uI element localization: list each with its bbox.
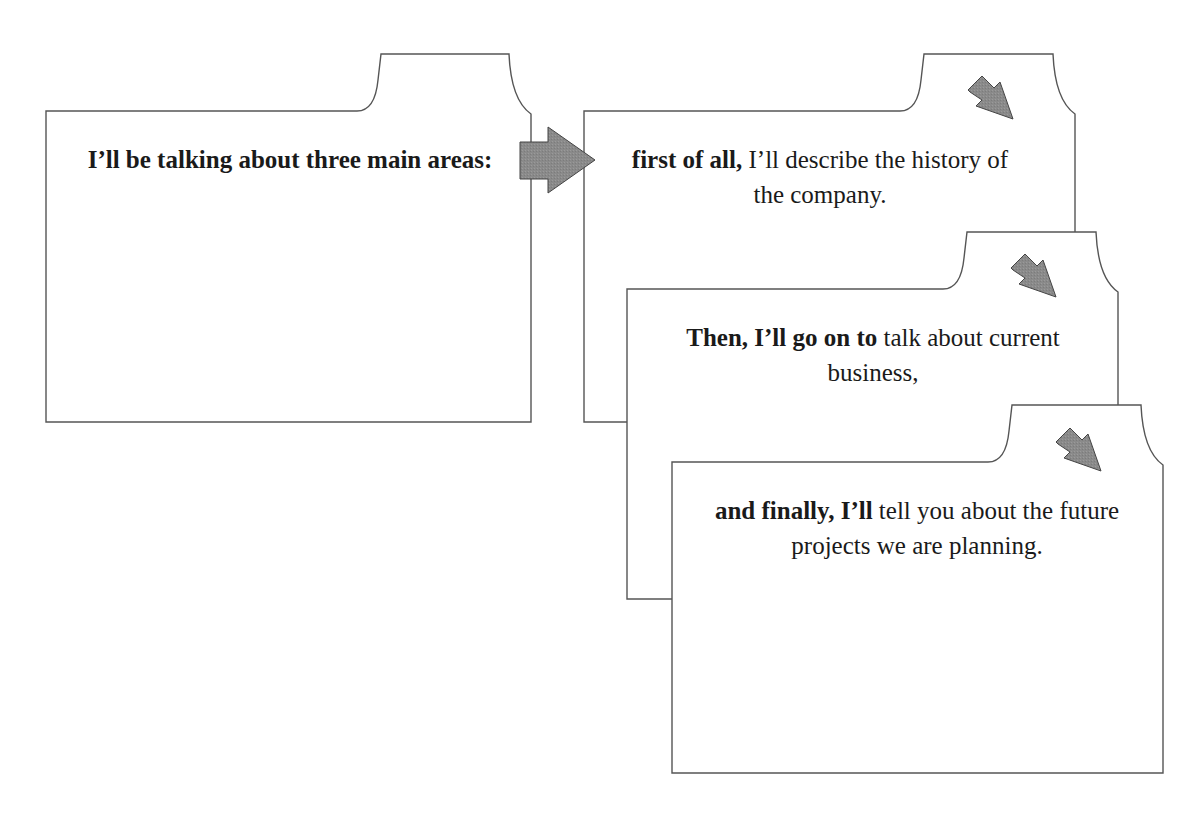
diagram-canvas [0,0,1201,814]
card-text-intro-bold: I’ll be talking about three main areas: [88,146,493,173]
card-text-first-normal: I’ll describe the history of the company… [742,146,1008,208]
card-text-finally: and finally, I’ll tell you about the fut… [712,493,1122,563]
card-text-finally-bold: and finally, I’ll [715,497,873,524]
folder-card-intro [46,54,531,422]
card-text-intro: I’ll be talking about three main areas: [80,142,500,177]
card-text-first-bold: first of all, [632,146,742,173]
card-text-then: Then, I’ll go on to talk about current b… [668,320,1078,390]
card-text-then-bold: Then, I’ll go on to [686,324,877,351]
card-text-first: first of all, I’ll describe the history … [620,142,1020,212]
